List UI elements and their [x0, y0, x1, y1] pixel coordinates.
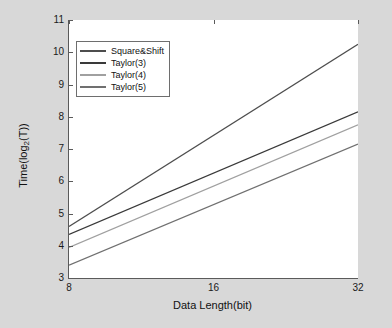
x-tick-mark — [69, 20, 70, 24]
legend-label: Taylor(3) — [111, 59, 146, 68]
y-tick-label: 10 — [53, 47, 64, 57]
y-tick-label: 5 — [58, 209, 64, 219]
y-tick-mark — [69, 214, 73, 215]
x-tick-mark — [214, 20, 215, 24]
y-tick-mark — [69, 246, 73, 247]
legend-swatch-icon — [80, 74, 106, 76]
y-tick-label: 9 — [58, 80, 64, 90]
x-tick-label: 32 — [352, 283, 363, 293]
x-axis-label: Data Length(bit) — [68, 300, 357, 311]
y-tick-mark — [69, 52, 73, 53]
y-tick-label: 11 — [54, 15, 64, 25]
series-line-1 — [69, 112, 358, 235]
y-tick-label: 3 — [58, 273, 64, 283]
y-tick-label: 6 — [58, 176, 64, 186]
x-tick-label: 8 — [66, 283, 72, 293]
y-axis-label-prefix: Time(log — [17, 145, 29, 187]
y-tick-mark — [69, 181, 73, 182]
legend-swatch-icon — [80, 50, 106, 52]
legend-item: Taylor(3) — [80, 57, 164, 69]
y-axis-label-suffix: (T)) — [17, 123, 29, 141]
y-tick-mark — [69, 278, 73, 279]
chart-figure: 3456789101181632 Time(log2(T)) Data Leng… — [0, 0, 392, 328]
y-axis-label: Time(log2(T)) — [18, 96, 31, 216]
series-line-3 — [69, 144, 358, 265]
y-tick-mark — [69, 117, 73, 118]
y-tick-mark — [69, 149, 73, 150]
x-tick-mark — [358, 20, 359, 24]
legend-label: Taylor(4) — [111, 71, 146, 80]
legend: Square&ShiftTaylor(3)Taylor(4)Taylor(5) — [76, 41, 170, 97]
legend-item: Taylor(5) — [80, 81, 164, 93]
legend-item: Taylor(4) — [80, 69, 164, 81]
legend-swatch-icon — [80, 86, 106, 88]
x-tick-label: 16 — [208, 283, 219, 293]
y-tick-label: 7 — [58, 144, 64, 154]
y-tick-label: 8 — [58, 112, 64, 122]
legend-label: Square&Shift — [111, 47, 164, 56]
legend-label: Taylor(5) — [111, 83, 146, 92]
series-line-2 — [69, 125, 358, 248]
legend-swatch-icon — [80, 62, 106, 64]
y-tick-label: 4 — [58, 241, 64, 251]
y-axis-label-sub: 2 — [22, 141, 31, 145]
y-tick-mark — [69, 85, 73, 86]
legend-item: Square&Shift — [80, 45, 164, 57]
